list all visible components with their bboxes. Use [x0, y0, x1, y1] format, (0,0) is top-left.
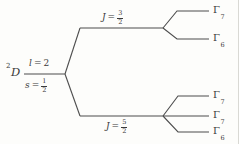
l-symbol: l	[29, 59, 32, 68]
j52-gamma6-label: Γ6	[213, 126, 224, 139]
j52-gamma7b-label: Γ7	[213, 110, 224, 123]
term-superscript: 2	[6, 62, 10, 70]
j52-level-label: J = 5 2	[106, 118, 127, 135]
branch-up-to-j32	[65, 28, 80, 74]
j32-gamma6-label: Γ6	[213, 33, 224, 46]
s-symbol: s	[25, 81, 30, 90]
gamma-symbol: Γ	[213, 109, 220, 120]
term-letter: D	[11, 65, 20, 79]
j52-equals: =	[112, 122, 120, 131]
branch-down-to-j52	[65, 74, 80, 116]
l-value: 2	[43, 59, 49, 68]
j32-fraction-denominator: 2	[118, 19, 122, 27]
j32-level-label: J = 3 2	[102, 9, 123, 26]
gamma-subscript: 7	[220, 98, 224, 106]
gamma-symbol: Γ	[213, 125, 220, 136]
s-quantum-number-label: s = 1 2	[25, 77, 47, 94]
j32-value-fraction: 3 2	[117, 10, 123, 27]
gamma-subscript: 7	[220, 13, 224, 21]
j52-value-fraction: 5 2	[121, 119, 127, 136]
term-symbol-label: 2D	[6, 66, 20, 78]
j52-gamma7a-branch-line	[163, 96, 209, 116]
j52-fraction-denominator: 2	[122, 128, 126, 136]
j32-gamma6-branch-line	[163, 28, 209, 39]
j32-symbol: J	[102, 13, 106, 22]
s-equals: =	[32, 81, 40, 90]
gamma-subscript: 6	[220, 41, 224, 49]
gamma-symbol: Γ	[213, 89, 220, 100]
gamma-symbol: Γ	[213, 32, 220, 43]
l-equals: =	[34, 59, 42, 68]
l-quantum-number-label: l = 2	[29, 59, 49, 68]
gamma-symbol: Γ	[213, 4, 220, 15]
j32-gamma7-label: Γ7	[213, 5, 224, 18]
s-fraction-denominator: 2	[42, 87, 46, 95]
gamma-subscript: 6	[220, 134, 224, 142]
j32-equals: =	[108, 13, 116, 22]
term-splitting-diagram: 2D l = 2 s = 1 2 J = 3 2 J = 5 2 Γ7	[0, 0, 239, 144]
s-value-fraction: 1 2	[41, 78, 47, 95]
j52-gamma7a-label: Γ7	[213, 90, 224, 103]
j52-symbol: J	[106, 122, 110, 131]
j52-gamma6-branch-line	[163, 116, 209, 132]
gamma-subscript: 7	[220, 118, 224, 126]
j32-gamma7-branch-line	[163, 11, 209, 28]
